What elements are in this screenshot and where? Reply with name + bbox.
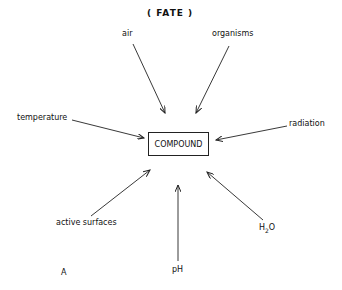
arrow-active-surfaces: [91, 170, 150, 216]
fate-diagram: ( FATE ) air organisms temperature radia…: [0, 0, 342, 290]
arrow-air: [133, 44, 165, 113]
compound-label: COMPOUND: [155, 140, 203, 149]
label-radiation: radiation: [289, 119, 325, 129]
arrow-organisms: [196, 46, 229, 113]
label-air: air: [122, 29, 132, 39]
label-organisms: organisms: [212, 29, 253, 39]
label-temperature: temperature: [17, 113, 67, 123]
label-active-surfaces: active surfaces: [56, 218, 117, 228]
arrow-temperature: [72, 120, 144, 138]
panel-label: A: [61, 268, 66, 278]
label-ph: pH: [172, 265, 183, 275]
compound-box: COMPOUND: [148, 132, 209, 156]
label-h2o: H2O: [259, 223, 275, 236]
arrow-h2o: [207, 172, 263, 220]
arrow-radiation: [216, 126, 287, 140]
diagram-title: ( FATE ): [147, 8, 193, 18]
